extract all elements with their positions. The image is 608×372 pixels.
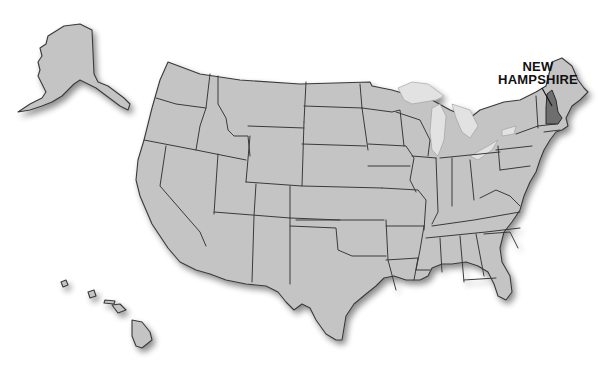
state-alaska bbox=[18, 24, 130, 112]
us-map-svg bbox=[0, 0, 608, 372]
hawaii-inset bbox=[61, 280, 152, 348]
alaska-inset bbox=[18, 24, 130, 112]
contiguous-us-outline bbox=[136, 58, 588, 340]
island-hawaii bbox=[132, 320, 152, 348]
new-hampshire-label: NEW HAMPSHIRE bbox=[488, 60, 588, 86]
us-map: NEW HAMPSHIRE bbox=[0, 0, 608, 372]
new-hampshire-label-line2: HAMPSHIRE bbox=[488, 73, 588, 86]
lake-superior bbox=[398, 82, 444, 104]
contiguous-us bbox=[136, 58, 588, 340]
